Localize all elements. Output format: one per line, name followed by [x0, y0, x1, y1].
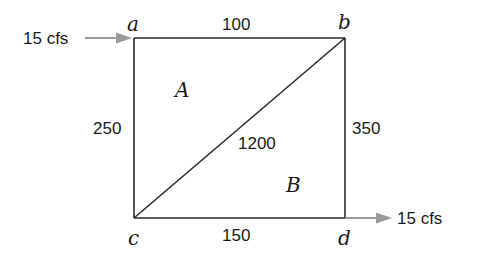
- node-label-a: a: [127, 14, 139, 34]
- pipe-label-bd: 350: [352, 120, 380, 137]
- inflow-label: 15 cfs: [23, 30, 68, 47]
- inflow-arrow-icon: [85, 33, 132, 44]
- pipe-label-ac: 250: [93, 120, 121, 137]
- loop-label-a: A: [175, 80, 189, 100]
- outflow-label: 15 cfs: [397, 210, 442, 227]
- node-label-b: b: [338, 12, 351, 32]
- pipe-cb: [134, 38, 345, 218]
- pipe-label-ab: 100: [222, 16, 250, 33]
- pipe-network-diagram: a b c d 100 250 350 150 1200 A B 15 cfs …: [0, 0, 482, 255]
- pipe-label-cb: 1200: [238, 135, 276, 152]
- node-label-d: d: [338, 228, 351, 248]
- node-label-c: c: [128, 228, 139, 248]
- outflow-arrow-icon: [345, 213, 392, 224]
- loop-label-b: B: [286, 175, 301, 195]
- pipe-label-cd: 150: [222, 227, 250, 244]
